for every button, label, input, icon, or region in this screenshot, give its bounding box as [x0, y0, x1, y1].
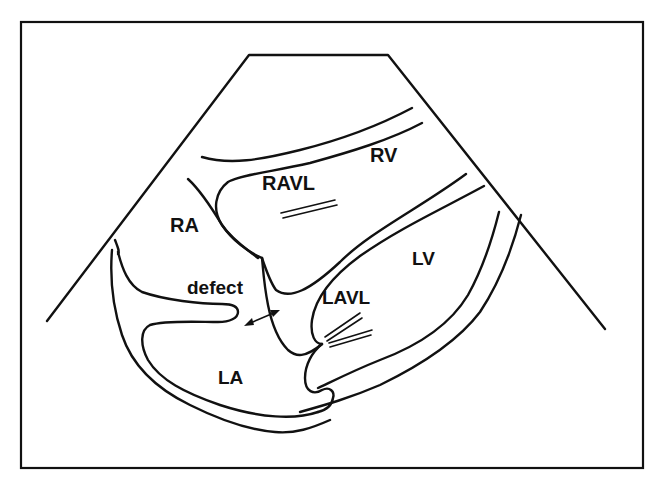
defect-arrow-icon: [244, 310, 280, 326]
label-la: LA: [218, 367, 244, 388]
ra-septum: [188, 179, 322, 355]
lavl-leaflets: [325, 313, 372, 347]
label-ravl: RAVL: [262, 172, 315, 194]
heart-diagram: RV RAVL RA LV defect LAVL LA: [0, 0, 648, 481]
ravl-leaflets: [281, 200, 337, 218]
label-defect: defect: [187, 277, 244, 298]
label-rv: RV: [370, 144, 398, 166]
label-lavl: LAVL: [322, 287, 371, 308]
label-ra: RA: [170, 214, 199, 236]
label-lv: LV: [412, 248, 435, 269]
lv-wall: [300, 212, 521, 412]
